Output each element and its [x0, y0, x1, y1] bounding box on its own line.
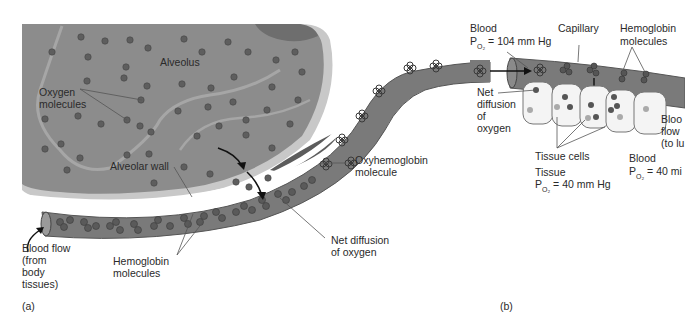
- po2-sub: O₂: [636, 173, 644, 180]
- label-blood-flow-b-3: (to lu: [661, 137, 684, 149]
- label-alveolar-wall: Alveolar wall: [110, 160, 169, 172]
- label-net-diffusion-b-2: diffusion: [477, 98, 516, 110]
- panel-label-a: (a): [22, 300, 35, 312]
- po2-prefix: P: [535, 178, 542, 190]
- po2-value: = 104 mm Hg: [488, 35, 551, 47]
- label-blood-flow-a-4: tissues): [22, 278, 58, 290]
- label-blood-flow-a-1: Blood flow: [22, 242, 70, 254]
- label-blood-top: Blood: [470, 22, 497, 34]
- label-hemoglobin-a-2: molecules: [113, 267, 160, 279]
- panel-label-b: (b): [500, 300, 513, 312]
- label-hemoglobin-a-1: Hemoglobin: [113, 255, 169, 267]
- po2-prefix: P: [470, 35, 477, 47]
- label-alveolus: Alveolus: [160, 56, 200, 68]
- po2-value: = 40 mm Hg: [553, 178, 610, 190]
- label-oxygen-molecules-1: Oxygen: [39, 86, 75, 98]
- label-net-diffusion-b-1: Net: [477, 86, 493, 98]
- label-blood-flow-b-2: flow: [661, 125, 680, 137]
- label-blood-flow-a-2: (from: [22, 254, 47, 266]
- alveolus-shape: [22, 24, 349, 203]
- label-blood-bottom-po2: PO₂ = 40 mi: [629, 165, 682, 179]
- label-net-diffusion-a-1: Net diffusion: [331, 234, 389, 246]
- label-tissue-cells: Tissue cells: [535, 150, 589, 162]
- po2-value: = 40 mi: [647, 165, 682, 177]
- po2-prefix: P: [629, 165, 636, 177]
- label-net-diffusion-b-3: of: [477, 110, 486, 122]
- label-blood-top-po2: PO₂ = 104 mm Hg: [470, 35, 551, 49]
- label-blood-bottom: Blood: [629, 152, 656, 164]
- label-tissue: Tissue: [535, 166, 566, 178]
- label-capillary: Capillary: [558, 22, 599, 34]
- po2-sub: O₂: [477, 43, 485, 50]
- label-oxyhemoglobin-1: Oxyhemoglobin: [355, 154, 428, 166]
- label-blood-flow-a-3: body: [22, 266, 45, 278]
- label-net-diffusion-b-4: oxygen: [477, 122, 511, 134]
- po2-sub: O₂: [542, 186, 550, 193]
- label-tissue-po2: PO₂ = 40 mm Hg: [535, 178, 611, 192]
- label-hemoglobin-b-1: Hemoglobin: [620, 22, 676, 34]
- label-net-diffusion-a-2: of oxygen: [331, 246, 377, 258]
- gas-exchange-diagram: [0, 0, 685, 328]
- label-oxyhemoglobin-2: molecule: [355, 166, 397, 178]
- label-oxygen-molecules-2: molecules: [39, 98, 86, 110]
- label-blood-flow-b-1: Bloo: [661, 113, 682, 125]
- label-hemoglobin-b-2: molecules: [620, 35, 667, 47]
